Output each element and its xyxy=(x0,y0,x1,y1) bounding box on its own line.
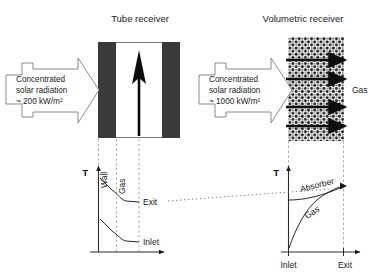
left-graph-curve-label-inlet: Inlet xyxy=(143,237,160,247)
left-graph: T Wall Gas Exit Inlet xyxy=(83,166,165,252)
tube-wall-left xyxy=(98,42,116,138)
right-radiation-arrow: Concentrated solar radiation ~ 1000 kW/m… xyxy=(199,58,292,123)
right-graph-exit-arrowhead xyxy=(340,183,347,190)
left-graph-curve-inlet xyxy=(100,219,139,242)
right-radiation-line1: Concentrated xyxy=(209,75,259,84)
figure-canvas: Tube receiver Concentrated solar radiati… xyxy=(0,0,381,280)
right-graph-curve-gas xyxy=(289,186,344,248)
tube-wall-right xyxy=(162,42,180,138)
diagram-svg: Tube receiver Concentrated solar radiati… xyxy=(0,0,381,280)
left-radiation-line3: ~ 200 kW/m² xyxy=(16,97,63,106)
right-graph-x-label-inlet: Inlet xyxy=(280,260,297,270)
volumetric-receiver-graphic: Gas xyxy=(286,37,368,141)
left-graph-y-axis-label: T xyxy=(83,168,89,178)
right-panel-title: Volumetric receiver xyxy=(263,13,344,24)
left-radiation-line1: Concentrated xyxy=(16,75,66,84)
right-graph-curve-label-gas: Gas xyxy=(303,204,322,221)
tube-receiver-graphic xyxy=(98,42,180,138)
left-radiation-arrow: Concentrated solar radiation ~ 200 kW/m² xyxy=(6,58,99,123)
right-graph: T Inlet Exit Absorber Gas xyxy=(274,166,361,270)
right-radiation-line2: solar radiation xyxy=(209,86,261,95)
left-graph-curve-label-exit: Exit xyxy=(143,197,158,207)
right-panel-group: Volumetric receiver Gas Concentrated sol… xyxy=(199,13,368,270)
left-panel-group: Tube receiver Concentrated solar radiati… xyxy=(6,13,180,252)
right-graph-y-axis-label: T xyxy=(274,168,280,178)
left-radiation-line2: solar radiation xyxy=(16,86,68,95)
volumetric-gas-label: Gas xyxy=(352,85,368,95)
left-panel-title: Tube receiver xyxy=(111,13,169,24)
right-graph-x-label-exit: Exit xyxy=(338,260,353,270)
right-radiation-line3: ~ 1000 kW/m² xyxy=(209,97,260,106)
left-graph-region-label-gas: Gas xyxy=(117,178,127,194)
